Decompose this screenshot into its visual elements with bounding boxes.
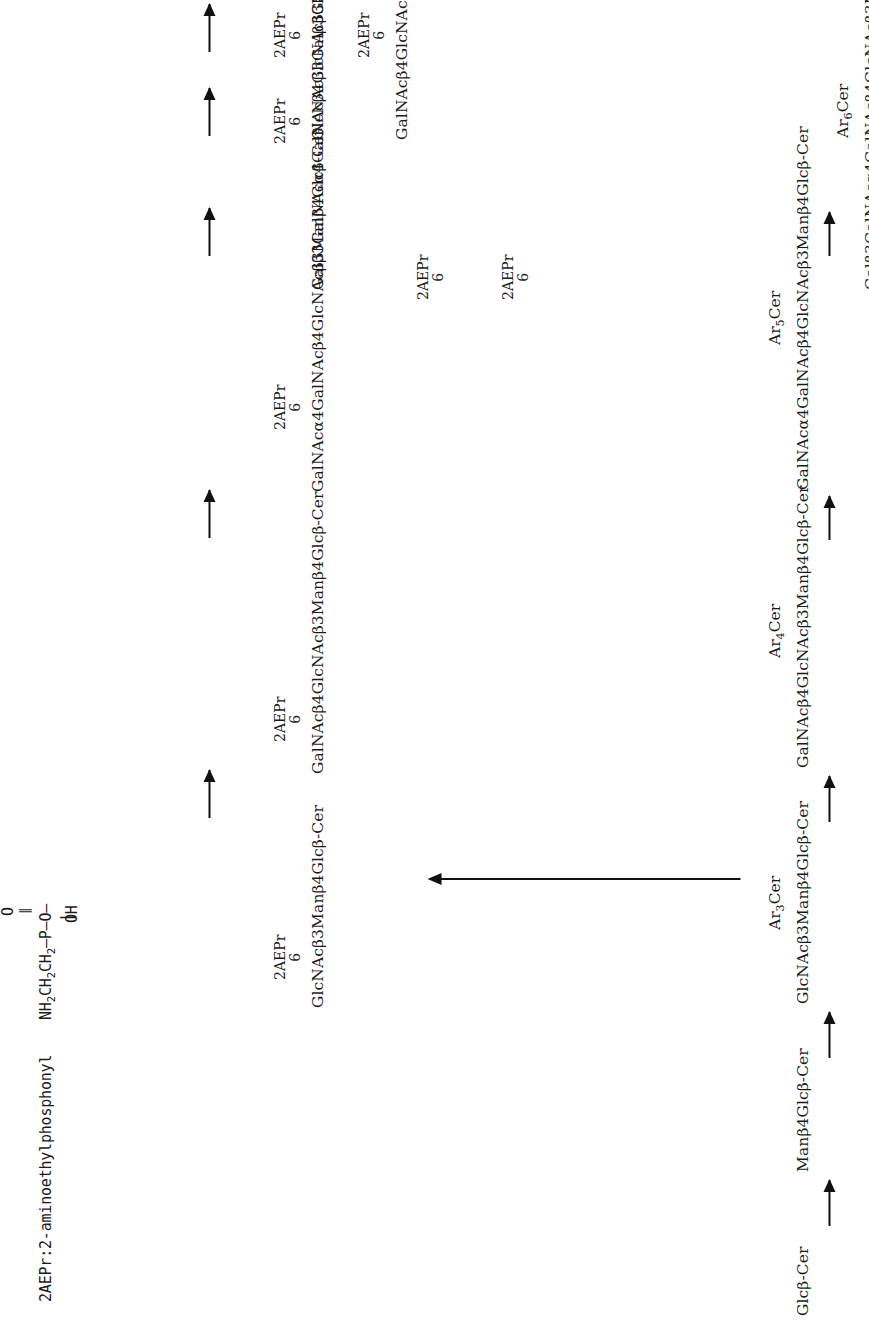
aep-position-row-2: 6 [287,385,301,430]
node-structure-2: GlcNAcβ3Manβ4Glcβ-Cer [793,801,811,1004]
aep-structure-row-4: GlcNAcβ3Galβ3GalNAcα4GalNAcβ4GlcNAcβ3Man… [308,0,326,140]
aep-label-row-2: 2AEPr [272,385,287,430]
arrow-1-to-2 [828,1012,830,1058]
aep-modifier-row-4-second: 2AEPr 6 [415,255,444,300]
aep-modifier-row-5-second: 2AEPr 6 [500,255,529,300]
aep-modifier-row-3: 2AEPr 6 [272,99,301,144]
aep-label-row-5-first: 2AEPr [356,13,371,58]
arrow-3-to-4 [828,496,830,540]
aep-position-row-5-second: 6 [515,255,529,300]
arrow-aep-3-to-4 [208,88,210,136]
aep-label-row-4-second: 2AEPr [415,255,430,300]
arrow-4-to-5 [828,212,830,256]
node-trivial-name-5: Ar6Cer [833,84,854,138]
aep-position-row-5-first: 6 [371,13,385,58]
aep-modifier-row-0: 2AEPr 6 [272,935,301,980]
aep-label-row-3: 2AEPr [272,99,287,144]
arrow-2-to-3 [828,776,830,822]
arrow-aep-2-to-3 [208,208,210,256]
node-structure-5: Galβ3GalNAcα4GalNAcβ4GlcNAcβ3Manβ4Glcβ-C… [861,0,869,290]
node-structure-3: GalNAcβ4GlcNAcβ3Manβ4Glcβ-Cer [793,485,811,768]
aep-position-row-0: 6 [287,935,301,980]
aep-position-row-3: 6 [287,99,301,144]
legend-formula-hydroxyl-text: OH [62,905,80,923]
aep-structure-row-0: GlcNAcβ3Manβ4Glcβ-Cer [308,805,326,1008]
aep-position-row-4-first: 6 [287,13,301,58]
aep-structure-row-5: GalNAcβ4GlcNAcβ3Galβ3GalNAcα4GalNAcβ4Glc… [392,0,410,140]
node-trivial-name-4: Ar5Cer [765,291,786,345]
aep-label-row-5-second: 2AEPr [500,255,515,300]
arrow-aep-0-to-1 [208,770,210,818]
aep-modifier-row-5-first: 2AEPr 6 [356,13,385,58]
pathway-diagram: 2AEPr:2-aminoethylphosphonyl NH2CH2CH2–P… [0,0,869,1330]
arrow-aep-4-to-5 [208,4,210,52]
arrow-main-chain-to-aep-branch [440,878,740,880]
aep-position-row-4-second: 6 [430,255,444,300]
aep-label-row-0: 2AEPr [272,935,287,980]
legend-formula-oxygen: O [0,907,16,916]
aep-modifier-row-4-first: 2AEPr 6 [272,13,301,58]
node-structure-0: Glcβ-Cer [793,1247,811,1316]
aep-position-row-1: 6 [287,697,301,742]
node-structure-1: Manβ4Glcβ-Cer [793,1048,811,1172]
aep-label-row-1: 2AEPr [272,697,287,742]
node-structure-4: GalNAcα4GalNAcβ4GlcNAcβ3Manβ4Glcβ-Cer [793,126,811,490]
legend-abbreviation: 2AEPr:2-aminoethylphosphonyl [36,1055,54,1302]
aep-structure-row-1: GalNAcβ4GlcNAcβ3Manβ4Glcβ-Cer [308,491,326,774]
node-trivial-name-2: Ar3Cer [765,876,786,930]
legend-double-bond-icon: ∥ [16,907,31,914]
aep-modifier-row-2: 2AEPr 6 [272,385,301,430]
arrow-aep-1-to-2 [208,490,210,538]
node-trivial-name-3: Ar4Cer [765,604,786,658]
arrow-0-to-1 [828,1180,830,1226]
aep-label-row-4-first: 2AEPr [272,13,287,58]
legend-formula-main: NH2CH2CH2–P–O– [36,904,57,1020]
aep-modifier-row-1: 2AEPr 6 [272,697,301,742]
